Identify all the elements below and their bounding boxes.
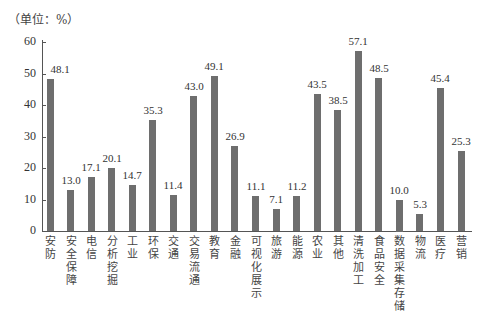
- bar: [88, 177, 95, 231]
- y-tick-label: 40: [12, 97, 36, 112]
- category-label: 医疗: [433, 235, 447, 261]
- bar: [437, 88, 444, 231]
- value-label: 25.3: [441, 135, 481, 147]
- category-label: 交易流通: [187, 235, 201, 287]
- bar: [47, 79, 54, 231]
- category-label: 旅游: [269, 235, 283, 261]
- x-axis: [42, 231, 472, 232]
- value-label: 57.1: [338, 35, 378, 47]
- value-label: 48.5: [359, 62, 399, 74]
- y-tick: [43, 168, 46, 169]
- y-tick: [43, 42, 46, 43]
- value-label: 14.7: [112, 169, 152, 181]
- category-label: 食品安全: [372, 235, 386, 287]
- bar: [355, 51, 362, 231]
- y-tick: [43, 137, 46, 138]
- bar: [190, 96, 197, 231]
- category-label: 清洗加工: [351, 235, 365, 287]
- value-label: 43.0: [174, 80, 214, 92]
- y-tick-label: 20: [12, 160, 36, 175]
- value-label: 20.1: [92, 152, 132, 164]
- category-label: 安全保障: [64, 235, 78, 287]
- value-label: 26.9: [215, 130, 255, 142]
- y-tick: [43, 231, 46, 232]
- bar: [334, 110, 341, 231]
- y-tick: [43, 200, 46, 201]
- value-label: 11.4: [153, 179, 193, 191]
- value-label: 43.5: [297, 78, 337, 90]
- y-tick-label: 0: [12, 223, 36, 238]
- category-label: 金融: [228, 235, 242, 261]
- value-label: 48.1: [40, 63, 80, 75]
- bar: [416, 214, 423, 231]
- y-tick-label: 60: [12, 34, 36, 49]
- unit-label: （单位：%）: [8, 10, 79, 27]
- bar: [211, 76, 218, 231]
- value-label: 10.0: [379, 184, 419, 196]
- category-label: 交通: [166, 235, 180, 261]
- y-tick: [43, 105, 46, 106]
- category-label: 教育: [207, 235, 221, 261]
- category-label: 电信: [84, 235, 98, 261]
- value-label: 11.2: [277, 180, 317, 192]
- bar: [273, 209, 280, 231]
- value-label: 11.1: [236, 180, 276, 192]
- bar: [314, 94, 321, 231]
- category-label: 能源: [290, 235, 304, 261]
- bar: [170, 195, 177, 231]
- y-tick-label: 50: [12, 66, 36, 81]
- category-label: 可视化展示: [249, 235, 263, 300]
- category-label: 分析挖掘: [105, 235, 119, 287]
- bar-chart: （单位：%） 010203040506048.1安防13.0安全保障17.1电信…: [0, 0, 491, 320]
- y-tick-label: 10: [12, 192, 36, 207]
- bar: [375, 78, 382, 231]
- value-label: 7.1: [256, 193, 296, 205]
- category-label: 营销: [454, 235, 468, 261]
- category-label: 其他: [331, 235, 345, 261]
- value-label: 38.5: [318, 94, 358, 106]
- y-tick-label: 30: [12, 129, 36, 144]
- value-label: 5.3: [400, 198, 440, 210]
- value-label: 35.3: [133, 104, 173, 116]
- category-label: 农业: [310, 235, 324, 261]
- bar: [129, 185, 136, 231]
- category-label: 数据采集存储: [392, 235, 406, 313]
- category-label: 环保: [146, 235, 160, 261]
- bar: [67, 190, 74, 231]
- category-label: 安防: [43, 235, 57, 261]
- category-label: 物流: [413, 235, 427, 261]
- value-label: 13.0: [51, 174, 91, 186]
- bar: [458, 151, 465, 231]
- bar: [293, 196, 300, 231]
- category-label: 工业: [125, 235, 139, 261]
- bar: [149, 120, 156, 231]
- value-label: 45.4: [420, 72, 460, 84]
- value-label: 49.1: [194, 60, 234, 72]
